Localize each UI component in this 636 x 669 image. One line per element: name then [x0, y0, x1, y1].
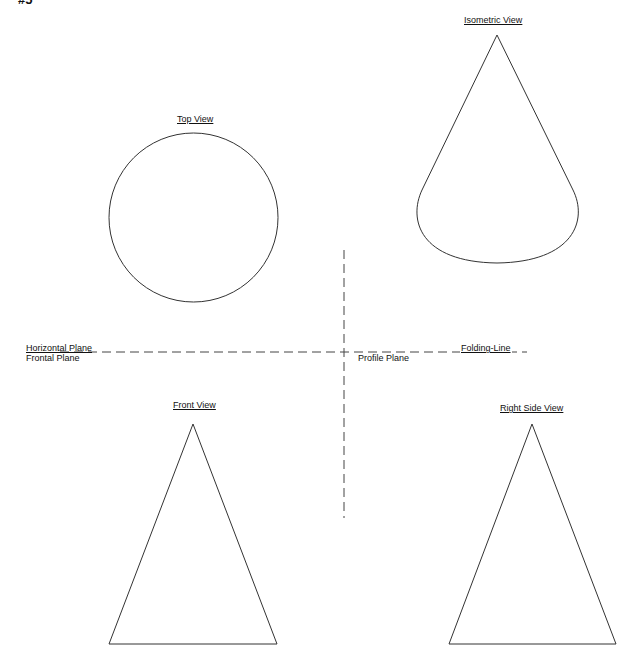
projection-diagram [0, 0, 636, 669]
frontal-plane-label: Frontal Plane [26, 354, 80, 363]
top-view-circle [109, 133, 278, 302]
top-view-title: Top View [177, 115, 213, 124]
isometric-cone [417, 35, 578, 263]
folding-line-label: Folding-Line [460, 344, 512, 353]
front-view-triangle [109, 424, 277, 644]
right-side-view-triangle [449, 424, 616, 644]
profile-plane-label: Profile Plane [358, 354, 409, 363]
horizontal-plane-label: Horizontal Plane [26, 344, 92, 353]
front-view-title: Front View [173, 401, 216, 410]
right-side-view-title: Right Side View [500, 404, 563, 413]
isometric-view-title: Isometric View [464, 16, 522, 25]
